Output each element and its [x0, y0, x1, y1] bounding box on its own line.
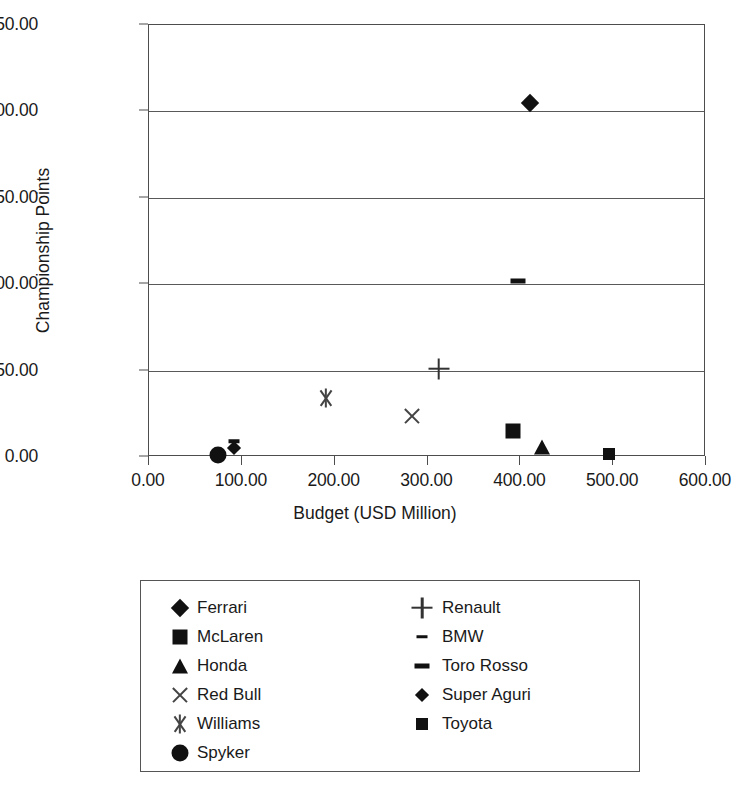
legend-label: Renault [442, 599, 501, 616]
plus-marker-icon [412, 598, 432, 618]
y-axis-tick-label: 250.00 [0, 14, 38, 35]
x-axis-title: Budget (USD Million) [0, 503, 750, 524]
legend-label: Williams [197, 715, 260, 732]
legend-item[interactable]: Red Bull [167, 680, 263, 709]
legend-item[interactable]: Super Aguri [409, 680, 531, 709]
dash-long-marker-icon [415, 663, 430, 668]
y-axis-tick-label: 0.00 [0, 446, 38, 467]
gridline [149, 111, 704, 112]
legend-item[interactable]: Toyota [409, 709, 531, 738]
legend-item[interactable]: Toro Rosso [409, 651, 531, 680]
legend-label: Toro Rosso [442, 657, 528, 674]
square-small-marker-icon [416, 718, 428, 730]
legend-column-left: FerrariMcLarenHondaRed BullWilliamsSpyke… [167, 593, 263, 767]
legend-label: BMW [442, 628, 484, 645]
legend-label: Super Aguri [442, 686, 531, 703]
legend-item[interactable]: Ferrari [167, 593, 263, 622]
legend-label: Ferrari [197, 599, 247, 616]
triangle-marker-icon [172, 658, 188, 673]
legend-symbol [409, 682, 435, 708]
legend-label: McLaren [197, 628, 263, 645]
x-axis-tick-mark [241, 456, 242, 465]
circle-marker-icon [209, 447, 226, 464]
legend-item[interactable]: McLaren [167, 622, 263, 651]
legend-column-right: RenaultBMWToro RossoSuper AguriToyota [409, 593, 531, 738]
legend: FerrariMcLarenHondaRed BullWilliamsSpyke… [140, 580, 640, 772]
legend-label: Toyota [442, 715, 492, 732]
x-marker-icon [403, 407, 421, 425]
legend-symbol [409, 595, 435, 621]
y-axis-tick-label: 50.00 [0, 359, 38, 380]
x-axis-tick-label: 600.00 [645, 470, 750, 491]
dash-long-marker-icon [511, 278, 526, 283]
square-small-marker-icon [603, 448, 615, 460]
legend-symbol [409, 653, 435, 679]
legend-item[interactable]: Honda [167, 651, 263, 680]
triangle-marker-icon [534, 439, 550, 454]
y-axis-tick-mark [139, 24, 148, 25]
legend-label: Red Bull [197, 686, 261, 703]
x-marker-icon [171, 686, 189, 704]
legend-symbol [167, 624, 193, 650]
y-axis-tick-mark [139, 369, 148, 370]
gridline [149, 284, 704, 285]
legend-label: Spyker [197, 744, 250, 761]
legend-symbol [409, 624, 435, 650]
y-axis-tick-mark [139, 110, 148, 111]
x-axis-tick-mark [427, 456, 428, 465]
scatter-chart: Championship Points 0.0050.00100.00150.0… [0, 0, 750, 560]
square-marker-icon [173, 629, 188, 644]
plus-marker-icon [429, 359, 449, 379]
asterisk-marker-icon [171, 715, 189, 733]
plot-area [148, 24, 705, 456]
legend-symbol [167, 653, 193, 679]
x-axis-tick-mark [334, 456, 335, 465]
y-axis-tick-label: 200.00 [0, 100, 38, 121]
legend-item[interactable]: BMW [409, 622, 531, 651]
legend-symbol [167, 740, 193, 766]
gridline [149, 371, 704, 372]
dash-short-marker-icon [417, 635, 428, 639]
y-axis-tick-mark [139, 283, 148, 284]
square-marker-icon [505, 424, 520, 439]
circle-marker-icon [172, 744, 189, 761]
y-axis-tick-mark [139, 196, 148, 197]
gridline [149, 198, 704, 199]
x-axis-tick-mark [519, 456, 520, 465]
x-axis-tick-mark [148, 456, 149, 465]
legend-item[interactable]: Spyker [167, 738, 263, 767]
legend-label: Honda [197, 657, 247, 674]
y-axis-tick-label: 100.00 [0, 273, 38, 294]
y-axis-tick-label: 150.00 [0, 186, 38, 207]
legend-symbol [167, 682, 193, 708]
legend-symbol [167, 595, 193, 621]
asterisk-marker-icon [317, 389, 335, 407]
x-axis-tick-mark [705, 456, 706, 465]
y-axis-title: Championship Points [33, 121, 54, 381]
legend-item[interactable]: Williams [167, 709, 263, 738]
legend-symbol [409, 711, 435, 737]
y-axis-tick-mark [139, 456, 148, 457]
legend-item[interactable]: Renault [409, 593, 531, 622]
legend-symbol [167, 711, 193, 737]
